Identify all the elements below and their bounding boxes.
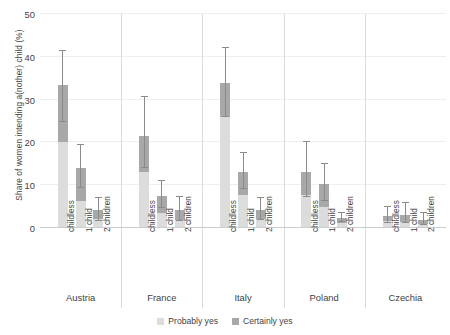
error-bar	[179, 197, 180, 221]
chart-figure: Share of women intending a(nother) child…	[0, 0, 450, 335]
error-bar	[225, 48, 226, 116]
country-label-czechia: Czechia	[388, 292, 422, 303]
error-cap-bottom	[321, 200, 328, 201]
x-label-czechia-1-child: 1 child	[409, 208, 419, 232]
legend-item-probably-yes[interactable]: Probably yes	[157, 316, 218, 326]
plot-area: 01020304050	[40, 14, 446, 228]
x-label-austria-childless: childless	[66, 200, 76, 232]
error-cap-top	[240, 152, 247, 153]
error-cap-bottom	[240, 188, 247, 189]
y-tick-label-30: 30	[25, 94, 35, 105]
x-label-italy-1-child: 1 child	[246, 208, 256, 232]
gridline-30	[40, 99, 446, 100]
group-separator-1	[121, 14, 122, 294]
error-bar	[324, 164, 325, 202]
country-separator-1	[121, 286, 122, 308]
x-label-poland-childless: childless	[310, 200, 320, 232]
error-bar	[80, 145, 81, 188]
error-bar	[144, 97, 145, 168]
error-cap-bottom	[222, 116, 229, 117]
y-tick-label-40: 40	[25, 51, 35, 62]
country-separator-3	[284, 286, 285, 308]
error-cap-top	[77, 144, 84, 145]
x-axis-line	[40, 227, 446, 228]
y-tick-label-10: 10	[25, 180, 35, 191]
group-separator-4	[365, 14, 366, 294]
error-cap-top	[59, 50, 66, 51]
y-axis-title: Share of women intending a(nother) child…	[14, 0, 24, 230]
x-label-poland-2-children: 2 children	[345, 196, 355, 232]
error-cap-top	[402, 202, 409, 203]
error-bar	[161, 181, 162, 208]
country-group-axis: AustriaFranceItalyPolandCzechia	[40, 288, 446, 310]
error-bar	[62, 51, 63, 122]
chart-legend: Probably yesCertainly yes	[0, 316, 450, 326]
error-cap-top	[303, 141, 310, 142]
group-separator-2	[202, 14, 203, 294]
country-separator-4	[365, 286, 366, 308]
error-cap-bottom	[95, 220, 102, 221]
group-separator-3	[284, 14, 285, 294]
x-label-czechia-childless: childless	[391, 200, 401, 232]
y-tick-label-20: 20	[25, 137, 35, 148]
country-label-france: France	[147, 292, 176, 303]
x-label-austria-2-children: 2 children	[102, 196, 112, 232]
error-bar	[98, 198, 99, 220]
error-cap-top	[95, 197, 102, 198]
x-label-poland-1-child: 1 child	[327, 208, 337, 232]
error-cap-bottom	[176, 220, 183, 221]
error-bar	[243, 153, 244, 190]
gridline-20	[40, 141, 446, 142]
x-label-france-childless: childless	[147, 200, 157, 232]
legend-label: Certainly yes	[243, 316, 293, 326]
error-bar	[387, 207, 388, 224]
x-label-france-1-child: 1 child	[165, 208, 175, 232]
x-label-france-2-children: 2 children	[183, 196, 193, 232]
legend-swatch-icon	[232, 318, 239, 325]
x-label-italy-childless: childless	[228, 200, 238, 232]
legend-item-certainly-yes[interactable]: Certainly yes	[232, 316, 293, 326]
gridline-40	[40, 56, 446, 57]
x-label-czechia-2-children: 2 children	[426, 196, 436, 232]
error-cap-top	[321, 163, 328, 164]
error-cap-bottom	[141, 167, 148, 168]
error-cap-bottom	[402, 222, 409, 223]
error-cap-top	[222, 47, 229, 48]
y-tick-label-0: 0	[30, 223, 35, 234]
country-separator-2	[202, 286, 203, 308]
legend-label: Probably yes	[168, 316, 218, 326]
legend-swatch-icon	[157, 318, 164, 325]
error-bar	[405, 203, 406, 223]
error-bar	[260, 198, 261, 220]
error-cap-bottom	[77, 187, 84, 188]
error-cap-bottom	[303, 196, 310, 197]
x-label-austria-1-child: 1 child	[84, 208, 94, 232]
error-cap-top	[158, 180, 165, 181]
error-bar	[306, 142, 307, 197]
country-label-poland: Poland	[310, 292, 339, 303]
x-label-italy-2-children: 2 children	[264, 196, 274, 232]
y-tick-label-50: 50	[25, 9, 35, 20]
country-label-austria: Austria	[66, 292, 95, 303]
error-cap-top	[176, 196, 183, 197]
error-cap-top	[141, 96, 148, 97]
country-label-italy: Italy	[234, 292, 251, 303]
gridline-50	[40, 13, 446, 14]
error-cap-bottom	[59, 121, 66, 122]
